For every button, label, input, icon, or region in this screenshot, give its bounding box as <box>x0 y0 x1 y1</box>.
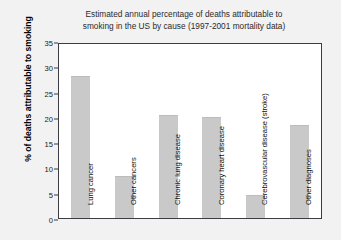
chart-figure: Estimated annual percentage of deaths at… <box>0 0 341 240</box>
y-axis-tick-label: 25 <box>45 89 53 98</box>
bar-slot[interactable]: Lung cancer <box>71 44 90 218</box>
y-axis-label: % of deaths attributable to smoking <box>23 0 33 179</box>
bar-category-label: Cerebrovascular disease (stroke) <box>260 93 269 205</box>
bar-category-label: Chronic lung disease <box>173 134 182 205</box>
chart-title: Estimated annual percentage of deaths at… <box>48 9 320 32</box>
y-axis-tick-label: 20 <box>45 114 53 123</box>
bar-category-label: Other cancers <box>129 157 138 205</box>
y-axis-tick-label: 30 <box>45 64 53 73</box>
bar-slot[interactable]: Other diagnoses <box>290 44 309 218</box>
bar-category-label: Coronary heart disease <box>216 126 225 205</box>
plot-area: Lung cancerOther cancersChronic lung dis… <box>58 43 322 219</box>
bar-slot[interactable]: Coronary heart disease <box>202 44 221 218</box>
y-axis: 05101520253035 <box>36 39 58 224</box>
bar-slot[interactable]: Other cancers <box>115 44 134 218</box>
bar-category-label: Lung cancer <box>85 163 94 205</box>
y-axis-tick-label: 15 <box>45 140 53 149</box>
bar-series: Lung cancerOther cancersChronic lung dis… <box>59 44 321 218</box>
bar-slot[interactable]: Chronic lung disease <box>159 44 178 218</box>
y-axis-tick-mark <box>54 220 58 221</box>
y-axis-tick-label: 5 <box>49 190 53 199</box>
bar-slot[interactable]: Cerebrovascular disease (stroke) <box>246 44 265 218</box>
y-axis-tick-label: 0 <box>49 216 53 225</box>
y-axis-tick-label: 10 <box>45 165 53 174</box>
y-axis-tick-label: 35 <box>45 39 53 48</box>
bar-category-label: Other diagnoses <box>304 149 313 205</box>
